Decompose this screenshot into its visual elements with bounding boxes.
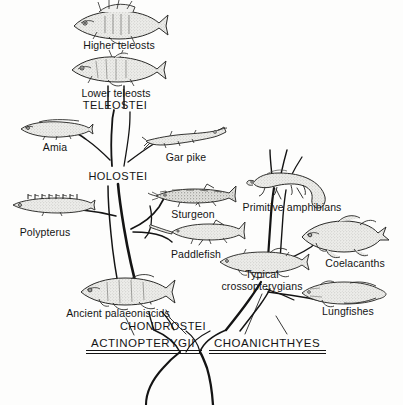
branch-to-paddlefish: [133, 232, 172, 242]
label-polypterus: Polypterus: [20, 227, 71, 238]
tree-branches-svg: [0, 0, 403, 405]
label-teleostei: TELEOSTEI: [83, 100, 148, 112]
phylogenetic-tree-figure: Higher teleosts Lower teleosts TELEOSTEI…: [0, 0, 403, 405]
root-stem-actinopterygii: [146, 352, 180, 405]
label-actinopterygii: ACTINOPTERYGII: [91, 337, 195, 349]
label-lower-teleosts: Lower teleosts: [81, 88, 150, 99]
label-typical-crossopterygians-line1: Typical: [222, 268, 303, 280]
label-typical-crossopterygians: Typical crossopterygians: [222, 268, 303, 292]
label-ancient-palaeoniscids: Ancient palaeoniscids: [66, 308, 170, 319]
label-choanichthyes: CHOANICHTHYES: [214, 337, 320, 349]
stem-crossopterygian-to-amphibians: [268, 188, 274, 258]
root-stem-choanichthyes: [200, 352, 213, 405]
stem-holostei-to-teleostei: [111, 110, 114, 166]
label-coelacanths: Coelacanths: [325, 258, 384, 269]
label-typical-crossopterygians-line2: crossopterygians: [222, 280, 303, 292]
label-amia: Amia: [43, 142, 67, 153]
organism-art-coelacanths: [302, 216, 389, 258]
label-sturgeon: Sturgeon: [171, 209, 214, 220]
label-chondrostei: CHONDROSTEI: [120, 321, 206, 333]
stem-holostei-to-teleostei-b: [124, 112, 130, 166]
branch-to-amia: [78, 134, 110, 160]
label-gar-pike: Gar pike: [166, 152, 206, 163]
organism-art-lungfishes: [302, 281, 386, 307]
label-primitive-amphibians: Primitive amphibians: [243, 202, 342, 213]
actinopterygii-underline: [86, 350, 202, 354]
label-holostei: HOLOSTEI: [88, 171, 147, 183]
organism-art-lower-teleosts: [72, 50, 166, 86]
organism-art-ancient-palaeoniscids: [81, 275, 175, 310]
organism-art-polypterus: [13, 194, 95, 216]
organism-art-higher-teleosts: [74, 0, 168, 44]
organism-art-gar-pike: [142, 127, 227, 148]
organism-art-paddlefish: [150, 220, 245, 244]
label-higher-teleosts: Higher teleosts: [83, 40, 155, 51]
choanichthyes-underline: [209, 350, 326, 354]
label-paddlefish: Paddlefish: [171, 249, 221, 260]
label-lungfishes: Lungfishes: [322, 306, 374, 317]
